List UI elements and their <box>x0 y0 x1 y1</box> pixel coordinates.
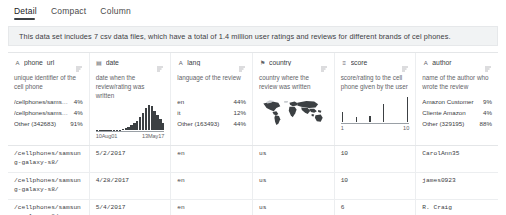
column-name-phone-url: phone_url <box>24 59 72 66</box>
distribution-author: Amazon Customer 9% Cliente Amazon 4% Oth… <box>422 97 492 133</box>
category-label: it <box>177 109 229 116</box>
cell-score: 10 <box>335 146 417 172</box>
category-label: /cellphones/samsun... <box>14 109 70 116</box>
text-type-icon: A <box>177 59 184 66</box>
tab-column-label: Column <box>100 6 131 16</box>
cell-author: CarolAnn35 <box>416 146 498 172</box>
cell-country: us <box>253 200 335 215</box>
histogram-spike <box>369 116 370 122</box>
cell-date: 5/2/2017 <box>90 146 172 172</box>
dataset-description-text: This data set includes 7 csv data files,… <box>19 32 451 41</box>
score-histogram: 1 10 <box>341 97 410 127</box>
column-header-score: ≡ score <box>341 57 410 68</box>
cell-phone-url: /cellphones/samsung-galaxy-s8/ <box>8 200 90 215</box>
category-row: Cliente Amazon 4% <box>422 109 492 116</box>
sort-icon[interactable] <box>238 59 246 67</box>
data-table: /cellphones/samsung-galaxy-s8/ 5/2/2017 … <box>8 146 498 215</box>
category-percent: 9% <box>483 98 492 105</box>
distribution-phone-url: /cellphones/samsun... 4% /cellphones/sam… <box>14 97 83 133</box>
column-summary-grid: A phone_url unique identifier of the cel… <box>8 52 498 146</box>
category-percent: 4% <box>483 109 492 116</box>
cell-date: 5/4/2017 <box>90 200 172 215</box>
distribution-country <box>259 97 328 133</box>
tab-compact[interactable]: Compact <box>51 6 86 20</box>
sort-icon[interactable] <box>320 59 328 67</box>
category-label: /cellphones/samsun... <box>14 98 70 105</box>
category-row: Other (342683) 91% <box>14 120 83 127</box>
category-percent: 44% <box>234 120 246 127</box>
column-name-lang: lang <box>187 59 235 66</box>
axis-max-label: 13May17 <box>142 133 164 139</box>
cell-lang: en <box>171 146 253 172</box>
tab-column[interactable]: Column <box>100 6 131 20</box>
column-description-lang: language of the review <box>177 73 246 92</box>
table-row[interactable]: /cellphones/samsung-galaxy-s8/ 5/4/2017 … <box>8 200 498 215</box>
histogram-bars <box>96 105 165 130</box>
column-name-score: score <box>351 59 399 66</box>
histogram-axis-labels: 1 10 <box>341 125 410 131</box>
table-row[interactable]: /cellphones/samsung-galaxy-s8/ 5/2/2017 … <box>8 146 498 173</box>
column-header-country: ⚑ country <box>259 57 328 68</box>
column-card-score[interactable]: ≡ score score/rating to the cell phone g… <box>335 53 417 145</box>
dataset-preview-panel: Detail Compact Column This data set incl… <box>0 0 506 215</box>
distribution-lang: en 44% it 12% Other (163493) 44% <box>177 97 246 133</box>
histogram-bar <box>162 123 164 131</box>
category-row: /cellphones/samsun... 4% <box>14 109 83 116</box>
category-label: Other (163493) <box>177 120 229 127</box>
histogram-spike <box>356 117 357 122</box>
histogram-spikes <box>341 97 410 122</box>
histogram-spike <box>342 112 343 122</box>
cell-lang: en <box>171 200 253 215</box>
view-tabs: Detail Compact Column <box>0 0 506 24</box>
sort-icon[interactable] <box>484 59 492 67</box>
number-type-icon: ≡ <box>341 59 348 66</box>
category-row: Other (329195) 88% <box>422 120 492 127</box>
column-description-author: name of the author who wrote the review <box>422 73 492 92</box>
tab-compact-label: Compact <box>51 6 86 16</box>
axis-max-label: 10 <box>403 125 409 131</box>
dataset-description-banner: This data set includes 7 csv data files,… <box>8 26 498 46</box>
histogram-spike <box>407 97 408 122</box>
sort-icon[interactable] <box>156 59 164 67</box>
category-row: Other (163493) 44% <box>177 120 246 127</box>
column-card-lang[interactable]: A lang language of the review en 44% it … <box>171 53 253 145</box>
category-label: Cliente Amazon <box>422 109 479 116</box>
column-card-phone-url[interactable]: A phone_url unique identifier of the cel… <box>8 53 90 145</box>
axis-min-label: 10Aug01 <box>96 133 118 139</box>
category-row: it 12% <box>177 109 246 116</box>
column-card-date[interactable]: ▤ date date when the review/rating was w… <box>90 53 172 145</box>
histogram-spike <box>383 104 384 122</box>
cell-country: us <box>253 146 335 172</box>
table-row[interactable]: /cellphones/samsung-galaxy-s8/ 4/28/2017… <box>8 173 498 200</box>
category-percent: 12% <box>234 109 246 116</box>
cell-score: 10 <box>335 173 417 199</box>
cell-lang: en <box>171 173 253 199</box>
cell-author: R. Craig <box>416 200 498 215</box>
category-row: /cellphones/samsun... 4% <box>14 98 83 105</box>
text-type-icon: A <box>422 59 429 66</box>
category-list-author: Amazon Customer 9% Cliente Amazon 4% Oth… <box>422 97 492 127</box>
category-list-lang: en 44% it 12% Other (163493) 44% <box>177 97 246 127</box>
category-label: en <box>177 98 229 105</box>
world-choropleth-map <box>259 97 328 127</box>
cell-phone-url: /cellphones/samsung-galaxy-s8/ <box>8 146 90 172</box>
column-header-phone-url: A phone_url <box>14 57 83 68</box>
category-list-phone-url: /cellphones/samsun... 4% /cellphones/sam… <box>14 97 83 127</box>
cell-date: 4/28/2017 <box>90 173 172 199</box>
histogram-axis-line <box>96 131 165 132</box>
cell-phone-url: /cellphones/samsung-galaxy-s8/ <box>8 173 90 199</box>
column-card-author[interactable]: A author name of the author who wrote th… <box>416 53 498 145</box>
date-histogram: 10Aug01 13May17 <box>96 105 165 135</box>
axis-min-label: 1 <box>341 125 344 131</box>
column-name-date: date <box>106 59 154 66</box>
cell-country: us <box>253 173 335 199</box>
column-card-country[interactable]: ⚑ country country where the review was w… <box>253 53 335 145</box>
distribution-date: 10Aug01 13May17 <box>96 105 165 141</box>
column-description-phone-url: unique identifier of the cell phone <box>14 73 83 92</box>
column-name-country: country <box>269 59 317 66</box>
sort-icon[interactable] <box>75 59 83 67</box>
sort-icon[interactable] <box>401 59 409 67</box>
tab-detail[interactable]: Detail <box>14 6 37 20</box>
category-label: Other (342683) <box>14 120 66 127</box>
column-name-author: author <box>432 59 481 66</box>
